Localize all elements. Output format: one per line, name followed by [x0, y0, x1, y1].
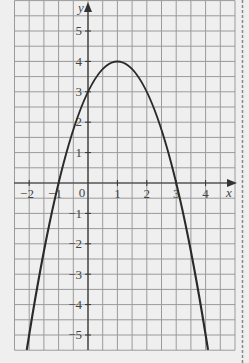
x-tick-label: 0 — [79, 185, 86, 200]
y-tick-label: −5 — [68, 327, 82, 342]
graph: x y −2 −1 0 1 2 3 4 5 4 3 2 1 −1 — [0, 0, 249, 363]
y-tick-label: −3 — [68, 267, 82, 282]
y-axis-arrow-icon — [84, 2, 92, 12]
x-tick-label: 4 — [202, 186, 209, 201]
x-tick-label: 2 — [144, 186, 151, 201]
y-tick-label: 1 — [76, 145, 83, 160]
x-tick-label: 1 — [114, 186, 121, 201]
y-tick-label: −2 — [68, 236, 82, 251]
y-axis-label: y — [76, 0, 84, 15]
grid-lines — [15, 1, 236, 351]
y-tick-label: −1 — [68, 206, 82, 221]
y-tick-label: 4 — [76, 54, 83, 69]
x-tick-label: −2 — [20, 186, 34, 201]
y-tick-label: 3 — [76, 84, 83, 99]
y-tick-label: −4 — [68, 297, 82, 312]
x-axis-label: x — [225, 185, 232, 200]
y-tick-label: 5 — [76, 23, 83, 38]
